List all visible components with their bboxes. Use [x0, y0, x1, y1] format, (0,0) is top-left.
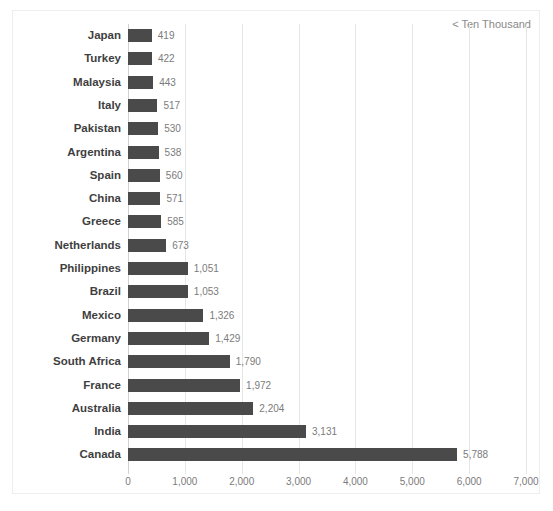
value-label: 538 [165, 145, 182, 160]
value-label: 673 [172, 238, 189, 253]
value-label: 1,972 [246, 378, 271, 393]
bar [128, 215, 161, 228]
category-label: Spain [90, 167, 121, 184]
category-label: Philippines [60, 260, 121, 277]
bar [128, 285, 188, 298]
x-axis: 01,0002,0003,0004,0005,0006,0007,000 [128, 476, 526, 498]
x-tick-label: 1,000 [172, 476, 197, 487]
bar [128, 99, 157, 112]
category-label: Turkey [84, 50, 121, 67]
bar-row: Spain560 [128, 164, 526, 187]
value-label: 419 [158, 28, 175, 43]
value-label: 1,429 [215, 331, 240, 346]
bar-row: Turkey422 [128, 47, 526, 70]
bar [128, 239, 166, 252]
value-label: 1,053 [194, 284, 219, 299]
x-tick-label: 4,000 [343, 476, 368, 487]
bar [128, 448, 457, 461]
value-label: 560 [166, 168, 183, 183]
bar [128, 192, 160, 205]
bar-row: Italy517 [128, 94, 526, 117]
category-label: South Africa [53, 353, 121, 370]
bar-row: China571 [128, 187, 526, 210]
bar [128, 29, 152, 42]
bar [128, 262, 188, 275]
bar-row: Pakistan530 [128, 117, 526, 140]
plot-area: Japan419Turkey422Malaysia443Italy517Paki… [128, 24, 526, 474]
bar-row: Japan419 [128, 24, 526, 47]
x-tick-label: 6,000 [457, 476, 482, 487]
category-label: Germany [71, 330, 121, 347]
bar [128, 52, 152, 65]
bar [128, 402, 253, 415]
bar-row: Mexico1,326 [128, 304, 526, 327]
category-label: Argentina [67, 144, 121, 161]
category-label: Malaysia [73, 74, 121, 91]
bar-row: South Africa1,790 [128, 350, 526, 373]
value-label: 1,051 [194, 261, 219, 276]
value-label: 5,788 [463, 447, 488, 462]
value-label: 443 [159, 75, 176, 90]
bar [128, 169, 160, 182]
bar [128, 355, 230, 368]
category-label: Pakistan [74, 120, 121, 137]
bar-row: Netherlands673 [128, 234, 526, 257]
category-label: Mexico [82, 307, 121, 324]
x-tick-label: 7,000 [513, 476, 538, 487]
bar-row: Canada5,788 [128, 443, 526, 466]
bar [128, 146, 159, 159]
x-tick-label: 0 [125, 476, 131, 487]
category-label: Brazil [90, 283, 121, 300]
bar [128, 76, 153, 89]
bar-row: India3,131 [128, 420, 526, 443]
bar [128, 379, 240, 392]
category-label: Australia [72, 400, 121, 417]
category-label: Italy [98, 97, 121, 114]
value-label: 422 [158, 51, 175, 66]
value-label: 517 [163, 98, 180, 113]
bar-rows: Japan419Turkey422Malaysia443Italy517Paki… [128, 24, 526, 474]
category-label: Canada [79, 446, 121, 463]
bar-row: Malaysia443 [128, 71, 526, 94]
bar [128, 309, 203, 322]
value-label: 1,326 [209, 308, 234, 323]
bar [128, 332, 209, 345]
value-label: 530 [164, 121, 181, 136]
bar-row: Greece585 [128, 210, 526, 233]
x-tick-label: 3,000 [286, 476, 311, 487]
value-label: 3,131 [312, 424, 337, 439]
value-label: 1,790 [236, 354, 261, 369]
category-label: France [83, 377, 121, 394]
bar-row: Philippines1,051 [128, 257, 526, 280]
bar-row: Brazil1,053 [128, 280, 526, 303]
bar-row: Argentina538 [128, 141, 526, 164]
x-tick-label: 2,000 [229, 476, 254, 487]
category-label: China [89, 190, 121, 207]
bar-row: Germany1,429 [128, 327, 526, 350]
x-tick-label: 5,000 [400, 476, 425, 487]
category-label: India [94, 423, 121, 440]
value-label: 585 [167, 214, 184, 229]
bar [128, 425, 306, 438]
value-label: 2,204 [259, 401, 284, 416]
bar [128, 122, 158, 135]
bar-chart-figure: < Ten Thousand Japan419Turkey422Malaysia… [0, 0, 553, 511]
category-label: Japan [88, 27, 121, 44]
category-label: Greece [82, 213, 121, 230]
bar-row: Australia2,204 [128, 397, 526, 420]
category-label: Netherlands [55, 237, 121, 254]
value-label: 571 [166, 191, 183, 206]
bar-row: France1,972 [128, 374, 526, 397]
